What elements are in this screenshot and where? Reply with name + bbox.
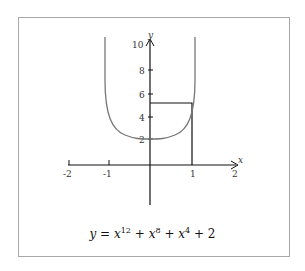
x-tick-label: 1 bbox=[190, 169, 196, 179]
caption-term-base: x bbox=[114, 227, 121, 241]
caption-plus: + bbox=[194, 227, 204, 241]
caption-term-exp: 4 bbox=[185, 226, 190, 235]
function-caption: y = x12 + x8 + x4 + 2 bbox=[0, 226, 305, 241]
y-tick-label: 10 bbox=[132, 40, 144, 50]
caption-lhs: y bbox=[89, 227, 96, 241]
y-axis-label: y bbox=[147, 30, 154, 40]
area-rectangle bbox=[150, 103, 192, 165]
caption-constant: 2 bbox=[208, 227, 216, 241]
x-tick-label: -2 bbox=[63, 169, 72, 179]
y-tick-label: 6 bbox=[139, 90, 145, 100]
caption-eq: = bbox=[100, 227, 110, 241]
x-axis-label: x bbox=[238, 155, 243, 165]
y-tick-label: 8 bbox=[139, 66, 145, 76]
y-tick-label: 4 bbox=[139, 113, 145, 123]
y-tick-label: 2 bbox=[139, 135, 145, 145]
caption-term-exp: 8 bbox=[155, 226, 160, 235]
caption-plus: + bbox=[135, 227, 145, 241]
x-tick-label: 2 bbox=[232, 169, 238, 179]
caption-plus: + bbox=[164, 227, 174, 241]
x-tick-label: -1 bbox=[103, 169, 112, 179]
caption-term-exp: 12 bbox=[121, 226, 131, 235]
